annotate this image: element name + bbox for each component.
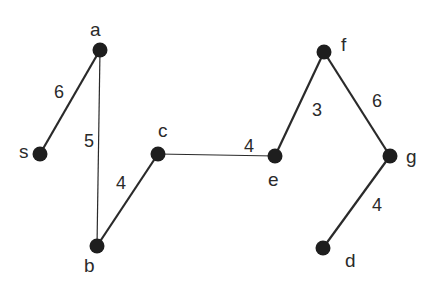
node-label-a: a (90, 19, 101, 40)
node-label-c: c (158, 120, 168, 141)
node-label-s: s (19, 141, 29, 162)
edge-weight-g-d: 4 (372, 195, 382, 215)
edge-a-b (97, 50, 100, 246)
edge-weight-e-f: 3 (312, 100, 322, 120)
node-f (317, 45, 332, 60)
node-d (316, 241, 331, 256)
node-a (93, 43, 108, 58)
edge-weight-a-b: 5 (84, 131, 94, 151)
node-label-g: g (406, 146, 417, 167)
edge-c-e (158, 154, 275, 156)
edge-weight-s-a: 6 (54, 82, 64, 102)
graph-diagram: 6544364asbcefgd (0, 0, 435, 287)
node-e (268, 149, 283, 164)
node-c (151, 147, 166, 162)
node-label-d: d (345, 250, 356, 271)
edge-weight-c-e: 4 (244, 136, 254, 156)
edge-weight-b-c: 4 (116, 173, 126, 193)
node-s (33, 147, 48, 162)
node-label-f: f (341, 34, 347, 55)
node-g (383, 149, 398, 164)
edge-b-c (97, 154, 158, 246)
edge-weight-f-g: 6 (372, 91, 382, 111)
node-b (90, 239, 105, 254)
node-label-e: e (268, 169, 279, 190)
graph-canvas: 6544364asbcefgd (0, 0, 435, 287)
node-label-b: b (84, 255, 95, 276)
